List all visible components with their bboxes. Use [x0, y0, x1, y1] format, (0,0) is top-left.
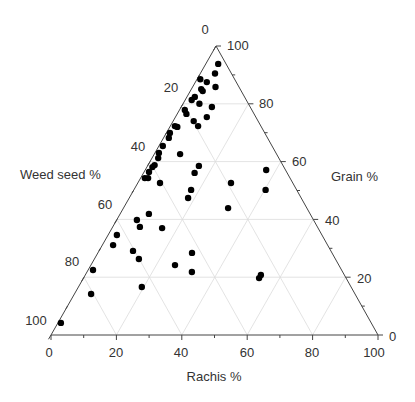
data-point: [136, 256, 142, 262]
data-point: [183, 111, 189, 117]
weed-tick: [148, 162, 151, 166]
grain-tick-20: 20: [357, 271, 371, 286]
data-point: [172, 262, 178, 268]
data-point: [160, 143, 166, 149]
grain-tick-80: 80: [259, 96, 273, 111]
weed-seed-axis-title: Weed seed %: [20, 167, 101, 182]
weed-tick-20: 20: [164, 80, 178, 95]
data-point: [110, 242, 116, 248]
data-point: [228, 180, 234, 186]
grain-tick-0: 0: [389, 329, 396, 344]
grain-tick-60: 60: [292, 154, 306, 169]
grid-lines: [84, 104, 346, 335]
data-point: [166, 135, 172, 141]
data-point: [189, 97, 195, 103]
weed-tick: [165, 133, 167, 136]
weed-tick: [115, 219, 118, 223]
weed-tick-60: 60: [98, 197, 112, 212]
rachis-tick-60: 60: [240, 345, 254, 360]
data-point: [157, 180, 163, 186]
data-point: [156, 150, 162, 156]
data-point: [172, 123, 178, 129]
grain-tick-100: 100: [227, 38, 249, 53]
weed-tick: [181, 104, 184, 108]
data-point: [134, 217, 140, 223]
data-point: [196, 163, 202, 169]
weed-tick-80: 80: [65, 254, 79, 269]
data-point: [191, 170, 197, 176]
data-point: [146, 211, 152, 217]
data-point: [114, 232, 120, 238]
data-point: [90, 267, 96, 273]
data-point: [142, 175, 148, 181]
weed-tick-0: 0: [201, 22, 208, 37]
weed-tick-40: 40: [131, 139, 145, 154]
data-point: [146, 169, 152, 175]
gridline-weed: [150, 162, 247, 335]
data-point: [177, 151, 183, 157]
data-point: [196, 101, 202, 107]
data-point: [256, 275, 262, 281]
rachis-tick-20: 20: [109, 345, 123, 360]
data-point: [139, 284, 145, 290]
weed-tick: [132, 191, 134, 194]
data-point: [262, 187, 268, 193]
gridline-rachis: [313, 277, 346, 335]
data-point: [195, 123, 201, 129]
weed-tick: [214, 46, 217, 50]
data-point: [188, 187, 194, 193]
data-point: [225, 205, 231, 211]
data-point: [130, 248, 136, 254]
weed-tick: [82, 277, 85, 281]
ternary-chart: 0 20 40 60 80 100 100 80 60 40 20 0 0 20…: [0, 0, 415, 402]
weed-tick-100: 100: [25, 313, 47, 328]
data-point: [137, 224, 143, 230]
data-point: [263, 167, 269, 173]
rachis-tick-40: 40: [174, 345, 188, 360]
data-point: [200, 88, 206, 94]
data-point: [209, 104, 215, 110]
data-point: [215, 61, 221, 67]
weed-tick: [99, 248, 101, 251]
data-point: [212, 84, 218, 90]
data-point: [88, 291, 94, 297]
data-point: [204, 114, 210, 120]
data-point: [159, 225, 165, 231]
grain-tick-40: 40: [325, 213, 339, 228]
grain-axis-title: Grain %: [331, 169, 378, 184]
data-point: [189, 269, 195, 275]
data-point: [212, 70, 218, 76]
rachis-axis-title: Rachis %: [187, 369, 242, 384]
data-point: [191, 118, 197, 124]
data-point: [185, 195, 191, 201]
rachis-tick-0: 0: [45, 345, 52, 360]
data-point: [197, 76, 203, 82]
weed-tick: [66, 306, 68, 309]
data-point: [58, 320, 64, 326]
data-point: [204, 79, 210, 85]
data-point: [189, 250, 195, 256]
rachis-tick-80: 80: [305, 345, 319, 360]
gridline-weed: [84, 277, 116, 335]
rachis-tick-100: 100: [363, 345, 385, 360]
